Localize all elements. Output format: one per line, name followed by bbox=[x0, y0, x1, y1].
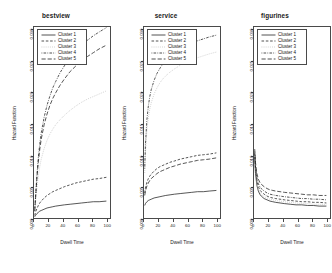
x-tick-label: 40 bbox=[56, 223, 70, 228]
y-tick-label: 0.020 bbox=[249, 89, 254, 105]
y-tick-label: 0.010 bbox=[139, 153, 144, 169]
series-line-2 bbox=[255, 153, 327, 203]
y-tick-label: 0.025 bbox=[29, 58, 34, 74]
legend-item: Cluster 5 bbox=[151, 56, 194, 62]
y-tick-label: 0.005 bbox=[139, 184, 144, 200]
chart-panel-bestview: bestviewHazard FunctionDwell Time0.0000.… bbox=[0, 0, 112, 273]
legend-line-icon bbox=[261, 50, 276, 56]
legend-line-icon bbox=[261, 44, 276, 50]
legend-line-icon bbox=[151, 32, 166, 38]
x-tick-mark bbox=[107, 219, 108, 222]
legend-label: Cluster 4 bbox=[168, 50, 186, 56]
x-tick-mark bbox=[173, 219, 174, 222]
y-tick-label: 0.010 bbox=[29, 153, 34, 169]
x-tick-label: 20 bbox=[261, 223, 275, 228]
legend: Cluster 1Cluster 2Cluster 3Cluster 4Clus… bbox=[147, 29, 197, 65]
x-tick-mark bbox=[33, 219, 34, 222]
legend-label: Cluster 2 bbox=[278, 38, 296, 44]
y-tick-label: 0.005 bbox=[29, 184, 34, 200]
legend-label: Cluster 5 bbox=[278, 56, 296, 62]
series-line-3 bbox=[145, 52, 217, 173]
y-tick-label: 0.030 bbox=[139, 26, 144, 42]
x-tick-mark bbox=[312, 219, 313, 222]
x-axis-label: Dwell Time bbox=[33, 240, 111, 245]
series-line-1 bbox=[35, 201, 107, 217]
panel-title: bestview bbox=[0, 12, 112, 19]
legend-line-icon bbox=[151, 44, 166, 50]
x-tick-label: 60 bbox=[291, 223, 305, 228]
legend-line-icon bbox=[261, 38, 276, 44]
x-tick-mark bbox=[158, 219, 159, 222]
legend-line-icon bbox=[261, 56, 276, 62]
x-tick-label: 0 bbox=[246, 223, 260, 228]
x-tick-label: 0 bbox=[136, 223, 150, 228]
series-line-3 bbox=[35, 91, 107, 212]
legend-item: Cluster 5 bbox=[41, 56, 84, 62]
x-tick-label: 80 bbox=[305, 223, 319, 228]
hazard-function-figure: bestviewHazard FunctionDwell Time0.0000.… bbox=[0, 0, 332, 273]
legend-line-icon bbox=[151, 56, 166, 62]
x-tick-label: 80 bbox=[195, 223, 209, 228]
y-tick-label: 0.020 bbox=[29, 89, 34, 105]
series-line-1 bbox=[255, 157, 327, 206]
legend-label: Cluster 3 bbox=[58, 44, 76, 50]
x-tick-mark bbox=[327, 219, 328, 222]
legend-line-icon bbox=[41, 50, 56, 56]
x-axis-label: Dwell Time bbox=[253, 240, 331, 245]
series-line-5 bbox=[255, 149, 327, 195]
x-tick-mark bbox=[92, 219, 93, 222]
x-tick-label: 20 bbox=[151, 223, 165, 228]
x-tick-mark bbox=[253, 219, 254, 222]
y-tick-label: 0.020 bbox=[139, 89, 144, 105]
y-tick-label: 0.025 bbox=[249, 58, 254, 74]
legend-item: Cluster 5 bbox=[261, 56, 304, 62]
x-tick-label: 100 bbox=[320, 223, 332, 228]
panel-title: service bbox=[110, 12, 222, 19]
series-line-2 bbox=[35, 177, 107, 215]
y-tick-label: 0.030 bbox=[29, 26, 34, 42]
y-tick-label: 0.015 bbox=[139, 121, 144, 137]
x-tick-label: 60 bbox=[71, 223, 85, 228]
series-line-4 bbox=[255, 152, 327, 200]
series-line-1 bbox=[145, 190, 217, 205]
x-tick-mark bbox=[48, 219, 49, 222]
x-tick-mark bbox=[143, 219, 144, 222]
legend-label: Cluster 2 bbox=[58, 38, 76, 44]
y-axis-label: Hazard Function bbox=[122, 106, 127, 140]
y-tick-label: 0.005 bbox=[249, 184, 254, 200]
legend-line-icon bbox=[41, 38, 56, 44]
legend-label: Cluster 5 bbox=[168, 56, 186, 62]
x-tick-mark bbox=[283, 219, 284, 222]
y-tick-label: 0.015 bbox=[249, 121, 254, 137]
series-line-3 bbox=[255, 155, 327, 205]
x-tick-label: 40 bbox=[276, 223, 290, 228]
legend-label: Cluster 4 bbox=[58, 50, 76, 56]
legend-label: Cluster 1 bbox=[278, 32, 296, 38]
x-tick-mark bbox=[78, 219, 79, 222]
legend-label: Cluster 4 bbox=[278, 50, 296, 56]
x-tick-mark bbox=[63, 219, 64, 222]
chart-panel-figurines: figurinesHazard FunctionDwell Time0.0000… bbox=[218, 0, 332, 273]
x-tick-mark bbox=[298, 219, 299, 222]
x-axis-label: Dwell Time bbox=[143, 240, 221, 245]
x-tick-label: 20 bbox=[41, 223, 55, 228]
legend-line-icon bbox=[151, 50, 166, 56]
legend-line-icon bbox=[261, 32, 276, 38]
legend-line-icon bbox=[41, 32, 56, 38]
x-tick-label: 80 bbox=[85, 223, 99, 228]
legend-label: Cluster 3 bbox=[168, 44, 186, 50]
y-tick-label: 0.030 bbox=[249, 26, 254, 42]
legend-label: Cluster 1 bbox=[58, 32, 76, 38]
legend-line-icon bbox=[151, 38, 166, 44]
y-axis-label: Hazard Function bbox=[232, 106, 237, 140]
series-line-2 bbox=[145, 153, 217, 193]
x-tick-mark bbox=[268, 219, 269, 222]
x-tick-label: 40 bbox=[166, 223, 180, 228]
x-tick-mark bbox=[188, 219, 189, 222]
chart-panel-service: serviceHazard FunctionDwell Time0.0000.0… bbox=[110, 0, 222, 273]
series-line-5 bbox=[145, 158, 217, 196]
legend-label: Cluster 5 bbox=[58, 56, 76, 62]
legend-label: Cluster 3 bbox=[278, 44, 296, 50]
panel-title: figurines bbox=[218, 12, 332, 19]
series-line-5 bbox=[35, 45, 107, 211]
